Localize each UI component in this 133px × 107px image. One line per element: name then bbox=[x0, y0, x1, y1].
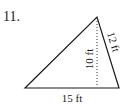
triangle-diagram: 11. 15 ft 10 ft 12 ft bbox=[0, 0, 133, 107]
triangle-figure: 11. 15 ft 10 ft 12 ft bbox=[0, 0, 133, 107]
height-label: 10 ft bbox=[83, 49, 95, 69]
triangle-outline bbox=[25, 17, 119, 88]
problem-number: 11. bbox=[3, 9, 20, 24]
base-label: 15 ft bbox=[62, 92, 82, 104]
